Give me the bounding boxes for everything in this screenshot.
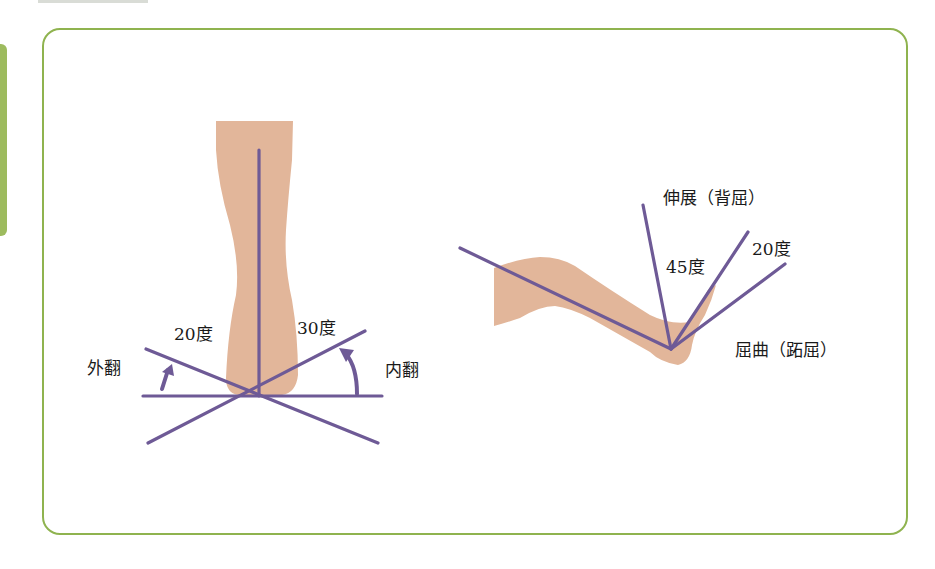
eversion-arrow	[162, 364, 174, 389]
inversion-arrow	[339, 348, 357, 394]
front-leg-illustration	[216, 121, 298, 395]
flexion-angle-label: 20度	[752, 241, 791, 258]
flexion-label: 屈曲（跖屈）	[735, 342, 837, 359]
eversion-angle-label: 20度	[174, 326, 213, 343]
eversion-label: 外翻	[87, 360, 121, 377]
inversion-angle-label: 30度	[297, 320, 336, 337]
range-of-motion-diagram	[0, 0, 935, 569]
extension-label: 伸展（背屈）	[663, 190, 765, 207]
inversion-label: 内翻	[385, 362, 419, 379]
extension-angle-label: 45度	[666, 259, 705, 276]
